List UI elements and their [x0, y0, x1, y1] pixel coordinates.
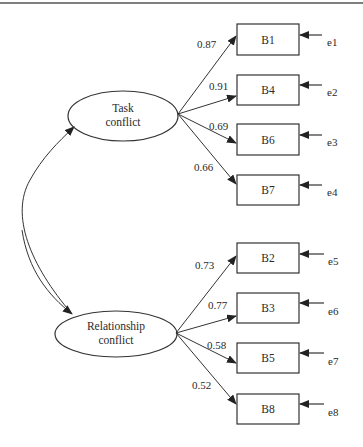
loading-value: 0.87 — [197, 38, 217, 50]
latent-relationship-conflict: Relationship conflict — [55, 311, 177, 357]
latent-label-line2: conflict — [98, 334, 134, 346]
loading-path — [178, 96, 236, 114]
latent-task-conflict: Task conflict — [68, 91, 178, 141]
error-label: e5 — [328, 255, 339, 267]
indicator-label: B8 — [261, 403, 275, 415]
loading-value: 0.91 — [209, 80, 228, 92]
loading-value: 0.52 — [192, 379, 211, 391]
indicator-label: B1 — [261, 34, 275, 46]
error-label: e6 — [328, 305, 339, 317]
indicator-label: B6 — [261, 134, 275, 146]
loading-value: 0.58 — [207, 339, 227, 351]
latent-label-line1: Task — [112, 102, 134, 114]
loading-value: 0.77 — [208, 299, 228, 311]
cfa-diagram: Task conflict Relationship conflict 0.87… — [0, 0, 363, 447]
indicator-group-task: 0.87 B1 e1 0.91 B4 e2 0.69 B6 e3 0.66 B7… — [178, 24, 338, 205]
indicator-label: B4 — [261, 84, 275, 96]
latent-label-line1: Relationship — [87, 320, 145, 333]
indicator-group-relationship: 0.73 B2 e5 0.77 B3 e6 0.58 B5 e7 0.52 B8… — [176, 243, 339, 424]
indicator-label: B2 — [261, 252, 275, 264]
error-label: e7 — [328, 355, 339, 367]
error-label: e1 — [327, 36, 337, 48]
covariance-arrow — [22, 127, 74, 314]
loading-path — [176, 333, 236, 363]
indicator-label: B7 — [261, 184, 275, 196]
loading-path — [176, 333, 236, 404]
error-label: e2 — [327, 86, 337, 98]
latent-label-line2: conflict — [105, 116, 141, 128]
error-label: e3 — [327, 136, 338, 148]
error-label: e4 — [327, 186, 338, 198]
loading-path — [176, 316, 236, 333]
loading-value: 0.73 — [195, 259, 215, 271]
indicator-label: B5 — [261, 352, 275, 364]
error-label: e8 — [328, 406, 339, 418]
loading-value: 0.69 — [209, 120, 229, 132]
loading-value: 0.66 — [194, 161, 214, 173]
indicator-label: B3 — [261, 302, 275, 314]
